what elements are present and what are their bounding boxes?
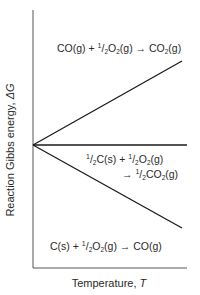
y-axis-symbol: ΔG (4, 83, 16, 99)
fraction-numerator: 1 (86, 153, 90, 160)
label-text: (g) → CO(g) (104, 240, 162, 252)
x-axis-label: Temperature, T (72, 277, 147, 289)
x-axis-label-text: Temperature, (72, 277, 140, 289)
fraction-numerator: 1 (98, 42, 102, 49)
fraction-numerator: 1 (135, 168, 139, 175)
y-axis-label-text: Reaction Gibbs energy, (4, 99, 16, 216)
label-co-to-co2: CO(g) + 1/2O2(g) → CO2(g) (57, 40, 181, 58)
fraction-numerator: 1 (82, 240, 86, 247)
label-text: C(s) + (50, 240, 82, 252)
label-text: C(s) + (96, 153, 128, 165)
label-c-to-co: C(s) + 1/2O2(g) → CO(g) (50, 238, 162, 256)
label-text: (g) (151, 153, 164, 165)
x-axis-symbol: T (140, 277, 147, 289)
line-co-to-co2 (33, 61, 182, 145)
label-text: (g) → CO (120, 42, 165, 54)
label-c-to-co2-line2: → 1/2CO2(g) (122, 166, 178, 184)
label-text: (g) (165, 168, 178, 180)
label-text: CO (146, 168, 162, 180)
label-text: O (108, 42, 116, 54)
label-text: O (139, 153, 147, 165)
arrow-text: → (122, 168, 135, 180)
label-text: (g) (168, 42, 181, 54)
fraction-numerator: 1 (128, 153, 132, 160)
label-text: CO(g) + (57, 42, 98, 54)
y-axis-label: Reaction Gibbs energy, ΔG (4, 83, 16, 216)
